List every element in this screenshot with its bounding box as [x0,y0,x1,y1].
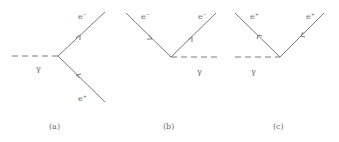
photon-label-b: γ [197,67,202,76]
outgoing-electron-line-b [171,13,216,57]
caption-a: (a) [49,122,60,131]
lower-label-a: e⁺ [78,94,87,103]
diagram-c: e⁺ e⁺ γ (c) [235,12,324,131]
diagram-a: γ e⁻ e⁺ (a) [12,12,105,131]
photon-label-c: γ [251,67,256,76]
feynman-diagrams-figure: γ e⁻ e⁺ (a) e⁻ e⁻ γ (b) e⁺ e⁺ γ (c) [0,0,339,142]
diagram-b: e⁻ e⁻ γ (b) [126,12,217,131]
right-label-c: e⁺ [306,12,315,21]
upper-label-a: e⁻ [78,12,87,21]
left-label-c: e⁺ [250,12,259,21]
photon-label-a: γ [36,64,41,73]
caption-b: (b) [163,122,174,131]
right-label-b: e⁻ [198,12,207,21]
caption-c: (c) [273,122,284,131]
left-label-b: e⁻ [141,12,150,21]
